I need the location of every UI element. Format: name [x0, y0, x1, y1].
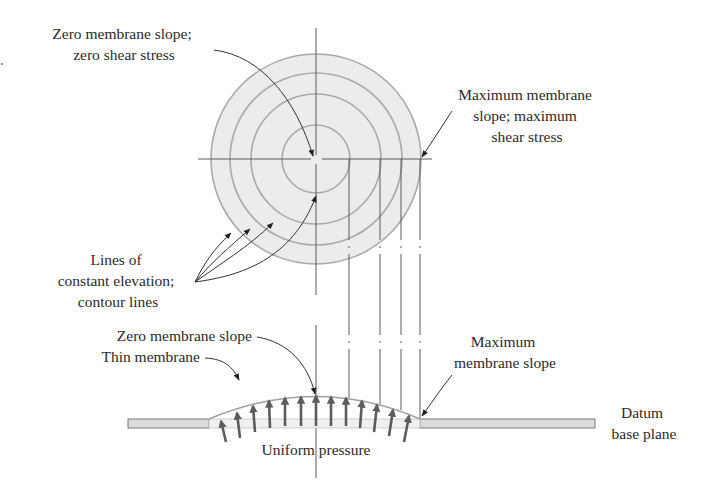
side-view: Zero membrane slope Thin membrane Maximu… [101, 327, 676, 458]
leader-max-slope-side [422, 375, 452, 416]
membrane-opening [209, 419, 420, 428]
datum-plate-right [420, 419, 595, 428]
thin-membrane-arc [209, 397, 420, 420]
label-datum-base-plane: Datum base plane [612, 404, 677, 442]
datum-plate-left [128, 419, 209, 428]
membrane-analogy-diagram: Zero membrane slope; zero shear stress M… [0, 0, 711, 495]
label-thin-membrane: Thin membrane [101, 348, 200, 365]
leader-thin-membrane [205, 358, 239, 380]
label-contour-lines: Lines of constant elevation; contour lin… [58, 251, 179, 310]
label-zero-slope-center: Zero membrane slope; zero shear stress [52, 25, 195, 63]
leader-zero-slope-side [257, 337, 315, 394]
label-maximum-membrane-slope: Maximum membrane slope [454, 333, 556, 371]
label-uniform-pressure: Uniform pressure [262, 441, 371, 458]
label-zero-membrane-slope: Zero membrane slope [117, 327, 252, 344]
leader-edge [422, 111, 452, 157]
label-max-slope-edge: Maximum membrane slope; maximum shear st… [458, 86, 596, 145]
top-view: Zero membrane slope; zero shear stress M… [52, 25, 596, 478]
stray-mark [1, 63, 3, 65]
